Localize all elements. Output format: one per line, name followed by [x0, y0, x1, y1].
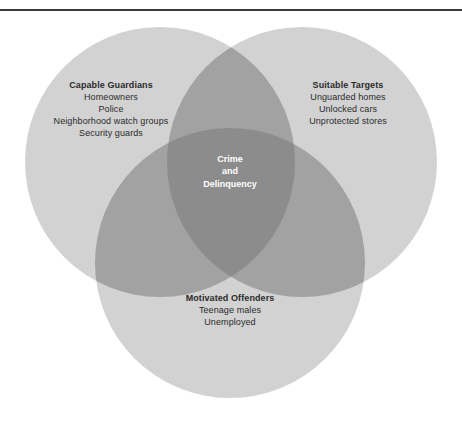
set-heading-capable-guardians: Capable Guardians	[18, 80, 204, 92]
set-heading-motivated-offenders: Motivated Offenders	[132, 293, 328, 305]
intersection-line-0: Crime	[176, 153, 284, 165]
intersection-line-1: and	[176, 165, 284, 177]
set-item-suitable-targets-1: Unlocked cars	[268, 104, 428, 116]
set-label-capable-guardians: Capable Guardians Homeowners Police Neig…	[18, 80, 204, 139]
set-label-motivated-offenders: Motivated Offenders Teenage males Unempl…	[132, 293, 328, 329]
set-item-capable-guardians-0: Homeowners	[18, 92, 204, 104]
set-item-capable-guardians-2: Neighborhood watch groups	[18, 116, 204, 128]
set-item-motivated-offenders-0: Teenage males	[132, 305, 328, 317]
intersection-line-2: Delinquency	[176, 178, 284, 190]
venn-stage: Capable Guardians Homeowners Police Neig…	[0, 0, 462, 424]
set-item-capable-guardians-3: Security guards	[18, 128, 204, 140]
set-heading-suitable-targets: Suitable Targets	[268, 80, 428, 92]
set-label-suitable-targets: Suitable Targets Unguarded homes Unlocke…	[268, 80, 428, 128]
intersection-label-crime-and-delinquency: Crime and Delinquency	[176, 153, 284, 190]
set-item-suitable-targets-2: Unprotected stores	[268, 116, 428, 128]
venn-circles-svg	[0, 0, 462, 424]
set-item-capable-guardians-1: Police	[18, 104, 204, 116]
venn-diagram-figure: Capable Guardians Homeowners Police Neig…	[0, 0, 462, 424]
set-item-motivated-offenders-1: Unemployed	[132, 317, 328, 329]
set-item-suitable-targets-0: Unguarded homes	[268, 92, 428, 104]
